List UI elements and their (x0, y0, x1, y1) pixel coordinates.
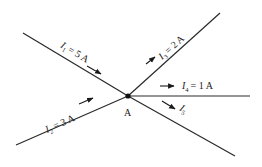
svg-text:I3= 2 A: I3= 2 A (155, 32, 188, 63)
junction-diagram: A I1= 5 A I2= 3 A I3= 2 A I4= 1 A I5 (0, 0, 262, 167)
label-i5: I5 (176, 102, 189, 117)
arrow-icon-i3 (146, 57, 155, 64)
junction-label: A (124, 107, 132, 118)
arrow-icon-i2 (79, 98, 93, 104)
wire-i1 (23, 33, 128, 96)
svg-text:I5: I5 (176, 102, 189, 117)
label-i3: I3= 2 A (155, 32, 188, 63)
svg-text:I1= 5 A: I1= 5 A (57, 39, 91, 67)
label-i4: I4= 1 A (181, 80, 214, 93)
svg-text:I2= 3 A: I2= 3 A (42, 112, 77, 137)
junction-node (125, 93, 130, 98)
label-i1: I1= 5 A (57, 39, 91, 67)
label-i2: I2= 3 A (42, 112, 77, 137)
arrow-icon-i5 (162, 101, 175, 109)
